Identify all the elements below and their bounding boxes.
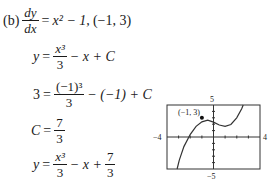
- step-4-constant-fraction: 7 3: [105, 150, 116, 179]
- step-2: 3 = (−1)³ 3 − (−1) + C: [33, 80, 155, 109]
- function-graph: (−1, 3) −4 4 5 −5: [150, 92, 274, 184]
- step-1: y = x³ 3 − x + C: [33, 42, 118, 71]
- step-4: y = x³ 3 − x + 7 3: [33, 150, 118, 179]
- given-point: (−1, 3): [93, 13, 131, 29]
- step-3-fraction: 7 3: [54, 116, 65, 145]
- equals: =: [42, 13, 50, 29]
- step-4-fraction: x³ 3: [53, 150, 67, 179]
- given-rhs: x² − 1,: [53, 13, 90, 29]
- step-3: C = 7 3: [31, 116, 68, 145]
- given-equation: (b) dy dx = x² − 1, (−1, 3): [3, 6, 134, 35]
- step-1-fraction: x³ 3: [53, 42, 67, 71]
- part-label: (b): [3, 13, 19, 29]
- step-2-fraction: (−1)³ 3: [54, 80, 84, 109]
- ymin-label: −5: [207, 172, 216, 181]
- point-marker: [200, 116, 204, 120]
- xmax-label: 4: [263, 133, 267, 142]
- derivative-fraction: dy dx: [22, 6, 38, 35]
- point-label: (−1, 3): [178, 108, 200, 117]
- xmin-label: −4: [153, 133, 162, 142]
- graph-svg: (−1, 3) −4 4 5 −5: [150, 92, 274, 184]
- ymax-label: 5: [210, 95, 214, 104]
